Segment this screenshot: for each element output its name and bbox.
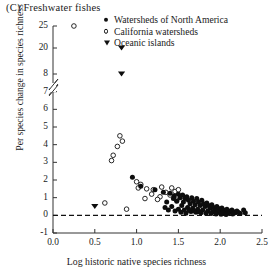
data-point: [192, 208, 197, 213]
data-point: [174, 199, 179, 204]
data-point: [159, 185, 164, 190]
data-point: [120, 139, 125, 144]
data-point: [214, 211, 219, 216]
data-point: [164, 200, 169, 205]
series-open-circle: [72, 24, 185, 212]
data-point: [124, 207, 129, 212]
figure-panel: (C) Freshwater fishes Watersheds of Nort…: [0, 0, 273, 278]
data-point: [155, 197, 160, 202]
data-point: [163, 205, 168, 210]
data-point: [118, 71, 125, 76]
data-point: [209, 211, 214, 216]
scatter-plot-canvas: [0, 0, 273, 278]
data-point: [143, 196, 148, 201]
data-point: [197, 209, 202, 214]
data-point: [91, 204, 98, 209]
data-point: [144, 187, 149, 192]
data-point: [230, 211, 235, 216]
data-point: [103, 201, 108, 206]
data-point: [176, 187, 181, 192]
data-point: [115, 144, 120, 149]
data-point: [224, 212, 229, 217]
data-point: [203, 211, 208, 216]
data-point: [118, 45, 125, 50]
data-point: [72, 24, 77, 29]
data-point: [134, 179, 139, 184]
data-point: [138, 184, 143, 189]
data-point: [243, 210, 248, 215]
data-point: [161, 190, 166, 195]
data-point: [109, 158, 114, 163]
data-point: [149, 192, 154, 197]
data-point: [118, 134, 123, 139]
series-filled-triangle-down: [91, 45, 125, 209]
data-point: [130, 175, 135, 180]
data-point: [111, 153, 116, 158]
data-point: [219, 212, 224, 217]
data-point: [187, 208, 192, 213]
data-point: [168, 191, 173, 196]
series-filled-circle: [130, 175, 248, 217]
data-point: [152, 187, 157, 192]
